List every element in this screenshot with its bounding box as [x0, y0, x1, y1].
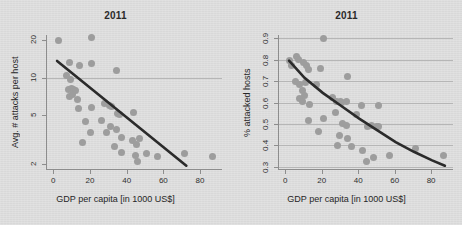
y-tick-label: 20 [29, 29, 40, 51]
x-tick-mark [53, 170, 54, 174]
x-tick-label: 0 [273, 176, 297, 185]
y-tick-mark [42, 164, 46, 165]
x-tick-label: 60 [151, 176, 175, 185]
figure-two-panel-scatter: 2011 Avg. # attacks per host GDP per cap… [0, 0, 462, 225]
y-tick-mark [42, 40, 46, 41]
x-tick-label: 40 [346, 176, 370, 185]
y-tick-label: 0.9 [261, 27, 272, 49]
y-tick-mark [274, 60, 278, 61]
x-tick-mark [285, 170, 286, 174]
y-tick-mark [274, 103, 278, 104]
y-tick-label: 10 [29, 67, 40, 89]
x-tick-mark [322, 170, 323, 174]
y-axis-title-left: Avg. # attacks per host [10, 35, 21, 170]
x-tick-mark [200, 170, 201, 174]
x-tick-label: 80 [419, 176, 443, 185]
y-tick-label: 2 [29, 153, 40, 175]
x-tick-mark [90, 170, 91, 174]
x-tick-label: 0 [41, 176, 65, 185]
y-tick-label: 5 [29, 104, 40, 126]
x-tick-label: 80 [188, 176, 212, 185]
x-tick-label: 60 [383, 176, 407, 185]
x-tick-label: 40 [115, 176, 139, 185]
y-tick-mark [274, 145, 278, 146]
y-tick-mark [274, 124, 278, 125]
trend-line [47, 35, 223, 170]
x-tick-label: 20 [310, 176, 334, 185]
panel-right-title: 2011 [231, 10, 462, 21]
x-tick-mark [395, 170, 396, 174]
x-axis-title-right: GDP per capita [in 1000 US$] [231, 194, 462, 204]
y-tick-label: 0.3 [261, 156, 272, 178]
x-tick-mark [431, 170, 432, 174]
y-tick-label: 0.7 [261, 70, 272, 92]
x-tick-label: 20 [78, 176, 102, 185]
panel-left-title: 2011 [0, 10, 231, 21]
trend-line [279, 35, 454, 170]
y-tick-label: 0.5 [261, 113, 272, 135]
panel-right: 2011 % attacked hosts GDP per capita [in… [231, 0, 462, 225]
plot-area-left [46, 35, 222, 170]
y-tick-label: 0.6 [261, 92, 272, 114]
x-axis-title-left: GDP per capita [in 1000 US$] [0, 194, 231, 204]
y-tick-mark [274, 81, 278, 82]
y-tick-label: 0.4 [261, 134, 272, 156]
plot-area-right [278, 35, 453, 170]
x-tick-mark [358, 170, 359, 174]
y-axis-title-right: % attacked hosts [242, 35, 253, 170]
y-tick-label: 0.8 [261, 49, 272, 71]
y-tick-mark [42, 78, 46, 79]
x-tick-mark [163, 170, 164, 174]
x-tick-mark [127, 170, 128, 174]
y-tick-mark [274, 167, 278, 168]
y-tick-mark [274, 38, 278, 39]
panel-left: 2011 Avg. # attacks per host GDP per cap… [0, 0, 231, 225]
y-tick-mark [42, 115, 46, 116]
